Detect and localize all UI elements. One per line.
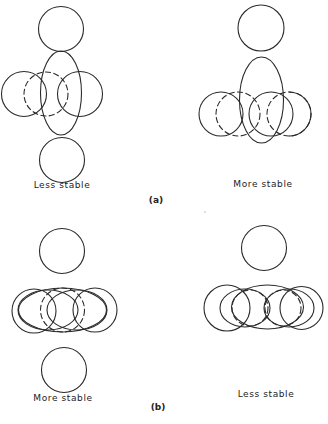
panel-a-left-caption: Less stable (34, 180, 91, 190)
orbital-circle-dashed (216, 92, 260, 136)
orbital-circle-solid (242, 226, 287, 271)
subfigure-label-a: (a) (149, 195, 163, 205)
panel-a-right-caption: More stable (233, 179, 292, 189)
orbital-lobe-solid (18, 290, 78, 330)
orbital-lobe-solid (240, 57, 284, 143)
panel-a-right (199, 5, 311, 143)
orbital-circle-solid (289, 92, 311, 136)
panel-b-right (204, 226, 323, 332)
diagram-canvas (0, 0, 328, 424)
subfigure-label-b: (b) (151, 402, 166, 412)
panel-b-left (12, 229, 117, 393)
scan-speck (204, 211, 205, 212)
panel-b-left-caption: More stable (33, 393, 92, 403)
orbital-circle-solid (238, 5, 284, 51)
panel-b-right-caption: Less stable (238, 389, 295, 399)
orbital-circle-solid (249, 92, 293, 136)
orbital-circle-solid (40, 229, 85, 274)
orbital-circle-solid (40, 138, 85, 183)
panel-a-left (2, 7, 103, 183)
orbital-circle-solid (199, 92, 243, 136)
orbital-circle-solid (42, 348, 87, 393)
orbital-lobe-solid (19, 288, 107, 332)
orbital-circle-solid (39, 7, 84, 52)
